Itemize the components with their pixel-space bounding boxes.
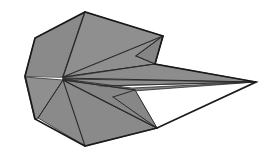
paper-airplane-figure	[0, 0, 272, 168]
figure-canvas	[0, 0, 272, 168]
